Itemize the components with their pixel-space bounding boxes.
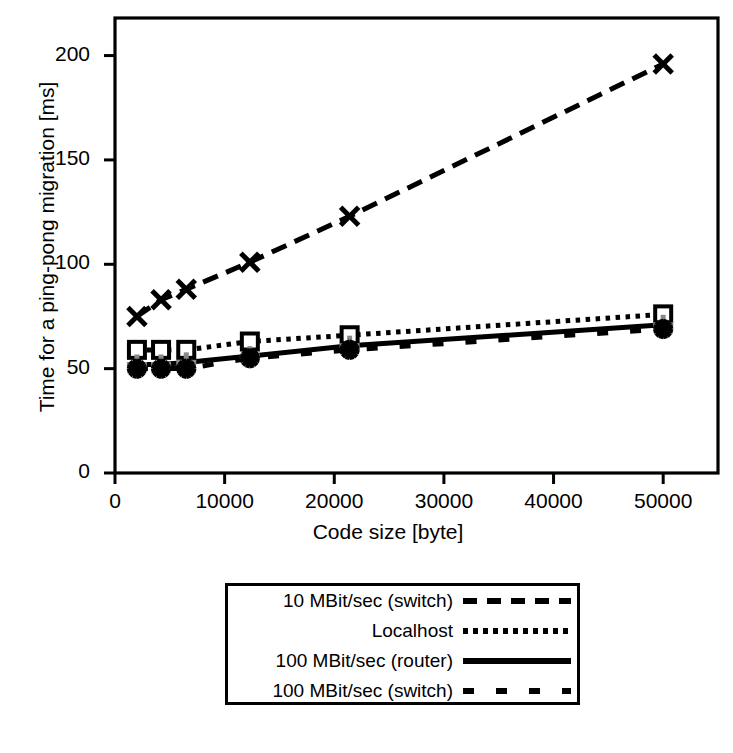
- chart-figure: Time for a ping-pong migration [ms] Code…: [0, 0, 733, 753]
- legend-line-swatch-dashed-long-icon: [463, 598, 571, 604]
- plot-area-container: Time for a ping-pong migration [ms] Code…: [0, 0, 733, 560]
- plot-frame: [115, 18, 718, 473]
- legend-label: 10 MBit/sec (switch): [283, 590, 453, 612]
- series-markers: [128, 55, 672, 326]
- legend-label: 100 MBit/sec (switch): [272, 680, 453, 702]
- legend: 10 MBit/sec (switch) Localhost 100 MBit/…: [225, 583, 580, 705]
- legend-item[interactable]: 100 MBit/sec (switch): [228, 676, 577, 706]
- legend-item[interactable]: 10 MBit/sec (switch): [228, 586, 577, 616]
- legend-item[interactable]: Localhost: [228, 616, 577, 646]
- legend-item[interactable]: 100 MBit/sec (router): [228, 646, 577, 676]
- legend-line-swatch-solid-icon: [463, 658, 571, 664]
- series-line: [137, 329, 663, 369]
- legend-label: Localhost: [372, 620, 453, 642]
- series-line: [137, 64, 663, 317]
- plot-svg: [0, 0, 733, 560]
- axis-ticks: [104, 56, 663, 484]
- legend-line-swatch-dotted-icon: [463, 628, 571, 634]
- legend-line-swatch-dashed-short-icon: [463, 688, 571, 694]
- legend-label: 100 MBit/sec (router): [276, 650, 453, 672]
